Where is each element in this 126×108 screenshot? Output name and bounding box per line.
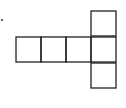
cube-net-diagram <box>0 0 126 108</box>
net-square-row-2 <box>41 37 66 62</box>
net-square-row-3 <box>66 37 91 62</box>
net-square-bottom <box>91 63 116 88</box>
net-square-row-1 <box>16 37 41 62</box>
net-square-top <box>91 11 116 36</box>
net-square-row-4 <box>91 37 116 62</box>
